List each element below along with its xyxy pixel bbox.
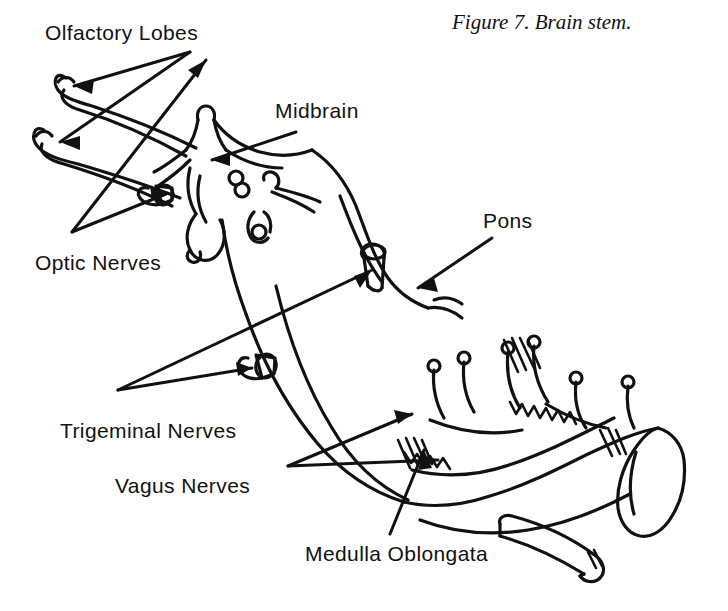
label-pons: Pons [483, 210, 532, 231]
label-olfactory-lobes: Olfactory Lobes [45, 22, 198, 43]
label-vagus-nerves: Vagus Nerves [115, 475, 250, 496]
leader-pons [418, 238, 492, 288]
leader-olfactory-lobes [60, 52, 190, 142]
medulla-body [404, 418, 685, 536]
figure-page: Olfactory Lobes Midbrain Pons Optic Nerv… [0, 0, 728, 611]
label-optic-nerves: Optic Nerves [35, 252, 161, 273]
label-trigeminal-nerves: Trigeminal Nerves [60, 420, 236, 441]
label-midbrain: Midbrain [275, 100, 359, 121]
cranial-nerve-stubs [222, 171, 320, 314]
brain-stem-illustration [0, 0, 728, 611]
pons-body [246, 150, 462, 502]
figure-caption: Figure 7. Brain stem. [452, 12, 631, 33]
label-medulla-oblongata: Medulla Oblongata [305, 543, 488, 564]
